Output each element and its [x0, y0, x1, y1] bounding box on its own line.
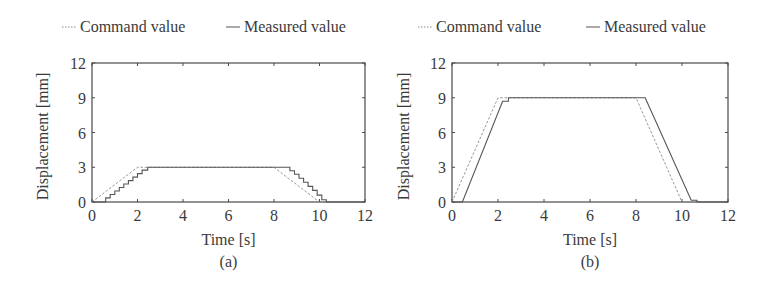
panel-caption: (a) — [220, 253, 238, 271]
y-tick-label: 12 — [70, 55, 86, 72]
legend-measured-label: Measured value — [604, 18, 706, 35]
measured-value-line — [92, 167, 365, 202]
x-axis-label: Time [s] — [563, 231, 617, 248]
panel-caption: (b) — [581, 253, 600, 271]
y-tick-label: 9 — [438, 90, 446, 107]
x-tick-label: 0 — [88, 207, 96, 224]
legend-command-label: Command value — [436, 18, 541, 35]
y-axis-label: Displacement [mm] — [395, 73, 413, 201]
x-tick-label: 4 — [179, 207, 187, 224]
y-tick-label: 0 — [438, 194, 446, 211]
x-tick-label: 12 — [357, 207, 373, 224]
x-tick-label: 2 — [134, 207, 142, 224]
y-axis-label: Displacement [mm] — [34, 73, 52, 201]
x-tick-label: 8 — [270, 207, 278, 224]
axes-frame — [452, 63, 728, 202]
x-tick-label: 0 — [448, 207, 456, 224]
legend-command-label: Command value — [80, 18, 185, 35]
legend: Command valueMeasured value — [418, 18, 706, 35]
y-tick-label: 3 — [438, 159, 446, 176]
y-tick-label: 0 — [78, 194, 86, 211]
y-tick-label: 9 — [78, 90, 86, 107]
measured-value-line — [452, 98, 728, 202]
x-tick-label: 6 — [225, 207, 233, 224]
y-tick-label: 3 — [78, 159, 86, 176]
x-tick-label: 6 — [586, 207, 594, 224]
command-value-line — [452, 98, 728, 202]
x-tick-label: 10 — [674, 207, 690, 224]
command-value-line — [92, 167, 365, 202]
x-tick-label: 4 — [540, 207, 548, 224]
legend-measured-label: Measured value — [244, 18, 346, 35]
y-tick-label: 6 — [78, 125, 86, 142]
x-tick-label: 8 — [632, 207, 640, 224]
chart-panel-a: Command valueMeasured value0246810120369… — [34, 18, 373, 271]
x-tick-label: 12 — [720, 207, 736, 224]
x-axis-label: Time [s] — [201, 231, 255, 248]
figure-canvas: Command valueMeasured value0246810120369… — [0, 0, 766, 284]
x-tick-label: 10 — [312, 207, 328, 224]
y-tick-label: 12 — [430, 55, 446, 72]
y-tick-label: 6 — [438, 125, 446, 142]
chart-panel-b: Command valueMeasured value0246810120369… — [395, 18, 736, 271]
legend: Command valueMeasured value — [62, 18, 346, 35]
x-tick-label: 2 — [494, 207, 502, 224]
